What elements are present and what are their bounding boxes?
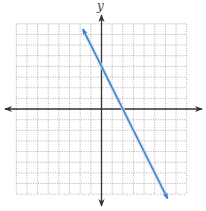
axes: [5, 15, 202, 206]
y-axis-label: y: [96, 0, 104, 13]
coordinate-plane: y: [0, 0, 206, 211]
